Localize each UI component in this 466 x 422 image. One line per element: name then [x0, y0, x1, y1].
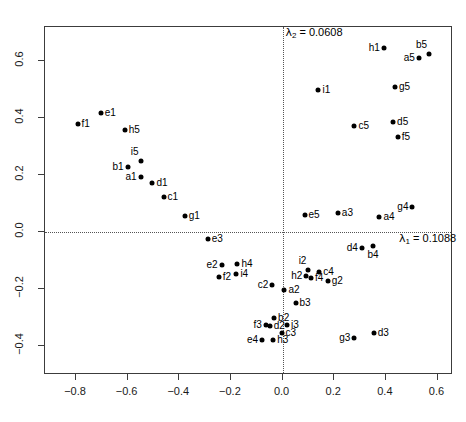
- data-point: [235, 261, 240, 266]
- y-axis-tick-label: −0.4: [4, 338, 34, 350]
- lambda2-annotation: λ2 = 0.0608: [285, 26, 342, 39]
- data-point: [316, 87, 321, 92]
- data-point: [216, 275, 221, 280]
- data-point-label: a2: [288, 285, 299, 295]
- data-point-label: i2: [299, 256, 307, 266]
- y-axis-tick-label: 0.4: [4, 110, 34, 122]
- data-point-label: e5: [309, 210, 320, 220]
- data-point-label: a1: [125, 172, 136, 182]
- data-point: [138, 175, 143, 180]
- data-point-label: g1: [189, 211, 200, 221]
- data-point-label: h3: [277, 335, 288, 345]
- data-point: [377, 215, 382, 220]
- data-point-label: a5: [404, 53, 415, 63]
- data-point-label: e1: [105, 108, 116, 118]
- data-point: [317, 270, 322, 275]
- data-point-label: d3: [378, 328, 389, 338]
- data-point: [352, 336, 357, 341]
- x-axis-tick-label: 0.6: [429, 385, 444, 397]
- x-axis-tick: [75, 374, 76, 380]
- data-point-label: e2: [207, 260, 218, 270]
- x-axis-tick-label: 0.2: [326, 385, 341, 397]
- data-point-label: c5: [358, 121, 369, 131]
- data-point-label: d2: [274, 321, 285, 331]
- data-point-label: e3: [212, 234, 223, 244]
- data-point: [391, 120, 396, 125]
- data-point-label: g5: [399, 82, 410, 92]
- data-point: [306, 268, 311, 273]
- scatter-plot-figure: −0.8−0.6−0.4−0.20.00.20.40.60.60.40.20.0…: [0, 0, 466, 422]
- data-point: [75, 122, 80, 127]
- data-point: [182, 213, 187, 218]
- data-point-label: g4: [397, 202, 408, 212]
- x-axis-tick: [385, 374, 386, 380]
- data-point: [370, 243, 375, 248]
- data-point-label: h5: [129, 125, 140, 135]
- data-point: [98, 111, 103, 116]
- data-point-label: c1: [168, 192, 179, 202]
- data-point: [293, 300, 298, 305]
- y-axis-tick-label: −0.2: [4, 281, 34, 293]
- data-point: [395, 134, 400, 139]
- y-axis-tick: [38, 231, 44, 232]
- data-point: [260, 338, 265, 343]
- data-point: [302, 213, 307, 218]
- data-point: [205, 237, 210, 242]
- data-point: [219, 263, 224, 268]
- data-point: [392, 84, 397, 89]
- x-axis-tick-label: 0.4: [377, 385, 392, 397]
- data-point: [410, 204, 415, 209]
- y-axis-tick: [38, 345, 44, 346]
- data-point-label: a4: [383, 212, 394, 222]
- plot-panel: [44, 26, 452, 374]
- x-axis-tick-label: −0.4: [167, 385, 189, 397]
- data-point-label: b3: [300, 298, 311, 308]
- x-axis-tick: [282, 374, 283, 380]
- data-point-label: d1: [156, 178, 167, 188]
- data-point: [138, 159, 143, 164]
- data-point: [335, 211, 340, 216]
- data-point-label: b1: [113, 162, 124, 172]
- x-axis-tick: [437, 374, 438, 380]
- data-point-label: g2: [332, 276, 343, 286]
- data-point: [122, 127, 127, 132]
- x-axis-tick: [178, 374, 179, 380]
- data-point: [150, 180, 155, 185]
- data-point: [427, 52, 432, 57]
- y-axis-tick: [38, 288, 44, 289]
- y-axis-tick-label: 0.2: [4, 167, 34, 179]
- data-point-label: f5: [402, 132, 410, 142]
- data-point-label: a3: [342, 208, 353, 218]
- data-point-label: d4: [347, 243, 358, 253]
- data-point-label: c2: [258, 280, 269, 290]
- data-point: [270, 283, 275, 288]
- data-point: [416, 56, 421, 61]
- data-point: [161, 194, 166, 199]
- data-point: [125, 165, 130, 170]
- data-point: [371, 331, 376, 336]
- data-point-label: h2: [291, 271, 302, 281]
- data-point-label: f4: [315, 273, 323, 283]
- data-point-label: b4: [367, 250, 378, 260]
- y-axis-tick-label: 0.0: [4, 224, 34, 236]
- x-axis-tick: [127, 374, 128, 380]
- data-point: [282, 288, 287, 293]
- y-axis-tick: [38, 174, 44, 175]
- data-point-label: b5: [416, 40, 427, 50]
- data-point-label: i5: [131, 147, 139, 157]
- data-point-label: e4: [247, 335, 258, 345]
- data-point: [309, 276, 314, 281]
- data-point-label: d5: [397, 117, 408, 127]
- data-point-label: g3: [339, 333, 350, 343]
- lambda1-annotation: λ1 = 0.1088: [399, 232, 456, 245]
- data-point-label: h1: [369, 43, 380, 53]
- y-axis-tick-label: 0.6: [4, 53, 34, 65]
- data-point-label: f3: [253, 320, 261, 330]
- data-point: [352, 123, 357, 128]
- x-axis-tick-label: −0.8: [64, 385, 86, 397]
- x-axis-tick: [333, 374, 334, 380]
- data-point: [381, 45, 386, 50]
- data-point-label: f2: [223, 272, 231, 282]
- data-point: [267, 324, 272, 329]
- y-axis-tick: [38, 60, 44, 61]
